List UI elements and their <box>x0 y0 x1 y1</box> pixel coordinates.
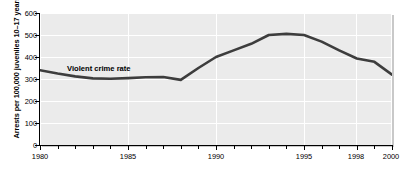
y-axis-tick-label: 300 <box>13 75 37 84</box>
x-axis-tick-label: 1995 <box>284 152 324 161</box>
x-axis-tick-label: 1980 <box>20 152 60 161</box>
x-axis-tick <box>75 146 76 149</box>
x-axis-tick <box>198 146 199 149</box>
x-axis-tick <box>392 146 393 150</box>
y-axis-title: Arrests per 100,000 juveniles 10–17 year… <box>12 0 21 139</box>
x-axis-tick <box>234 146 235 149</box>
series-violent-crime-rate <box>40 13 392 145</box>
x-axis-tick <box>374 146 375 149</box>
x-axis-tick-label: 1990 <box>196 152 236 161</box>
x-axis-tick <box>163 146 164 149</box>
x-axis-tick <box>128 146 129 150</box>
x-axis-tick <box>269 146 270 149</box>
x-axis-tick <box>339 146 340 149</box>
x-axis-tick <box>93 146 94 149</box>
x-axis-tick <box>58 146 59 149</box>
x-axis-tick <box>110 146 111 149</box>
x-axis-tick <box>251 146 252 149</box>
y-axis-line <box>39 13 40 146</box>
y-axis-tick-label: 100 <box>13 119 37 128</box>
y-axis-tick-label: 400 <box>13 53 37 62</box>
x-axis-tick <box>322 146 323 149</box>
x-axis-tick-label: 2000 <box>371 152 411 161</box>
y-axis-tick-label: 0 <box>13 141 37 150</box>
x-axis-tick <box>286 146 287 149</box>
x-axis-tick-label: 1985 <box>108 152 148 161</box>
series-annotation-label: Violent crime rate <box>67 64 131 73</box>
x-axis-tick <box>216 146 217 150</box>
x-axis-tick <box>357 146 358 150</box>
x-axis-tick <box>181 146 182 149</box>
chart-figure: Arrests per 100,000 juveniles 10–17 year… <box>0 0 411 178</box>
x-axis-tick <box>146 146 147 149</box>
x-axis-tick <box>40 146 41 150</box>
x-axis-tick <box>304 146 305 150</box>
x-axis-tick-label: 1998 <box>336 152 376 161</box>
y-axis-tick-label: 600 <box>13 9 37 18</box>
y-axis-tick-label: 500 <box>13 31 37 40</box>
y-axis-tick-label: 200 <box>13 97 37 106</box>
